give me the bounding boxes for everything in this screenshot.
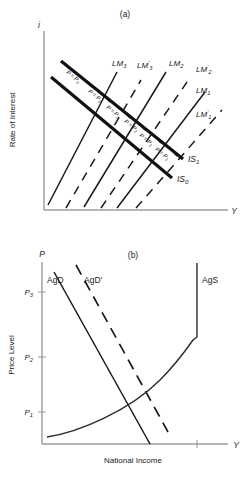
panel-b-x-axis-label: National Income [104,456,162,465]
economics-figure: (a) i Y Rate of Interest [0,0,251,479]
agd-prime-label: AgD' [84,275,103,285]
panel-a-y-axis-label: Rate of Interest [8,92,17,147]
agd-label: AgD [47,275,64,285]
ags-label: AgS [202,275,218,285]
panel-b-title: (b) [128,250,139,260]
panel-a-title: (a) [120,9,131,19]
panel-b-y-axis-label: Price Level [7,335,16,375]
panel-b-y-axis-var: P [39,249,45,259]
